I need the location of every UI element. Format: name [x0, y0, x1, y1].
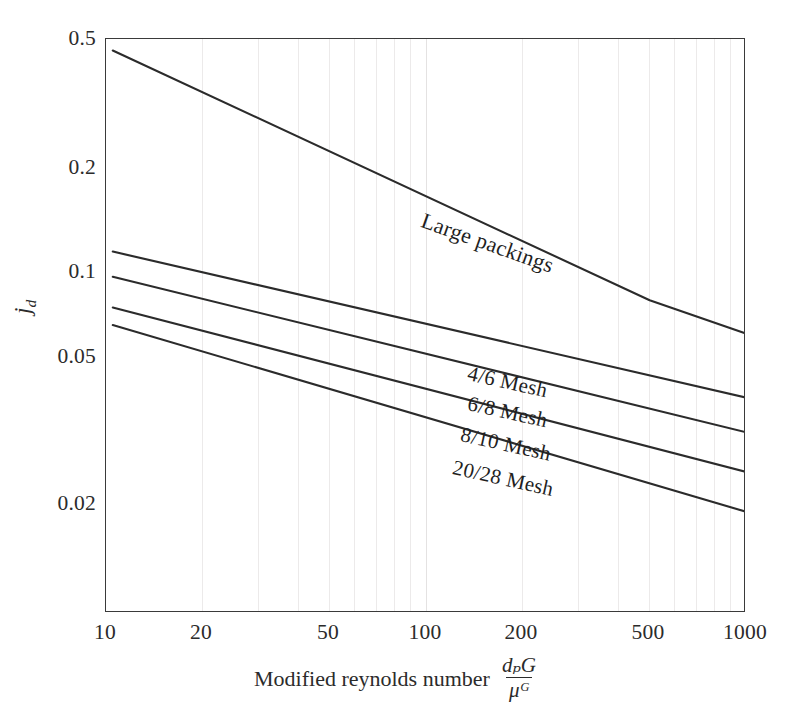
curve-20-28-mesh	[113, 325, 745, 512]
y-axis-tick-labels: 0.5 0.2 0.1 0.05 0.02	[0, 0, 96, 719]
x-axis-title-fraction: dₚG μᴳ	[499, 654, 539, 701]
curve-8-10-mesh	[113, 307, 745, 472]
y-axis-title-base: j	[10, 308, 35, 314]
y-tick-label: 0.1	[69, 261, 96, 283]
x-tick-label: 20	[190, 622, 212, 644]
x-tick-label: 10	[94, 622, 116, 644]
y-axis-title: jd	[10, 300, 40, 314]
x-axis-title: Modified reynolds number dₚG μᴳ	[0, 655, 793, 702]
x-tick-label: 50	[317, 622, 339, 644]
x-tick-label: 1000	[723, 622, 767, 644]
x-tick-label: 200	[505, 622, 538, 644]
x-axis-tick-labels: 10 20 50 100 200 500 1000	[0, 622, 793, 656]
curve-large-packings	[113, 51, 745, 334]
curve-4-6-mesh	[113, 252, 745, 398]
y-tick-label: 0.5	[69, 28, 96, 50]
y-tick-label: 0.2	[69, 157, 96, 179]
fraction-numerator: dₚG	[499, 654, 539, 677]
chart-figure: 0.5 0.2 0.1 0.05 0.02 jd Large packi	[0, 0, 793, 719]
x-tick-label: 100	[409, 622, 442, 644]
fraction-denominator: μᴳ	[506, 677, 532, 701]
y-tick-label: 0.05	[58, 346, 96, 368]
y-axis-title-subscript: d	[22, 300, 39, 308]
curve-layer	[106, 39, 745, 612]
plot-area: Large packings 4/6 Mesh 6/8 Mesh 8/10 Me…	[105, 38, 745, 612]
x-axis-title-text: Modified reynolds number	[254, 666, 490, 692]
y-tick-label: 0.02	[58, 493, 96, 515]
x-tick-label: 500	[632, 622, 665, 644]
